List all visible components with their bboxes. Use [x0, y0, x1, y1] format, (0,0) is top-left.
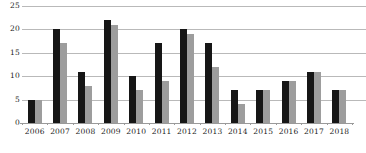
bar: [136, 90, 143, 123]
x-tick-mark: [124, 123, 125, 125]
bar: [282, 81, 289, 123]
y-tick-label: 15: [0, 49, 20, 57]
bar: [53, 29, 60, 123]
bar: [238, 104, 245, 123]
x-tick-label: 2007: [47, 128, 72, 136]
bar: [155, 43, 162, 123]
bar-group: [22, 6, 47, 123]
x-tick-label: 2009: [98, 128, 123, 136]
bar-group: [301, 6, 326, 123]
bar-group: [251, 6, 276, 123]
x-tick-mark: [149, 123, 150, 125]
x-tick-label: 2013: [200, 128, 225, 136]
bar: [231, 90, 238, 123]
x-tick-label: 2016: [276, 128, 301, 136]
bar: [205, 43, 212, 123]
y-tick-label: 0: [0, 119, 20, 127]
x-tick-mark: [98, 123, 99, 125]
bar: [332, 90, 339, 123]
axis-baseline: [20, 123, 354, 124]
x-tick-label: 2006: [22, 128, 47, 136]
bar-group: [73, 6, 98, 123]
y-tick-label: 20: [0, 25, 20, 33]
x-tick-label: 2011: [149, 128, 174, 136]
bar-group: [200, 6, 225, 123]
x-tick-label: 2012: [174, 128, 199, 136]
bar: [85, 86, 92, 123]
bar: [129, 76, 136, 123]
bar-group: [98, 6, 123, 123]
y-tick-label: 5: [0, 96, 20, 104]
x-axis: 2006200720082009201020112012201320142015…: [22, 128, 352, 136]
y-tick-label: 25: [0, 2, 20, 10]
x-tick-mark: [250, 123, 251, 125]
bar: [104, 20, 111, 123]
bar: [35, 100, 42, 123]
x-tick-mark: [174, 123, 175, 125]
y-tick-label: 10: [0, 72, 20, 80]
x-tick-label: 2014: [225, 128, 250, 136]
bar-chart: 0510152025 20062007200820092010201120122…: [0, 0, 366, 153]
bar: [314, 72, 321, 123]
bar: [256, 90, 263, 123]
x-tick-mark: [22, 123, 23, 125]
bar: [263, 90, 270, 123]
bar: [307, 72, 314, 123]
bar-group: [149, 6, 174, 123]
bar: [339, 90, 346, 123]
x-tick-mark: [327, 123, 328, 125]
bar: [28, 100, 35, 123]
bar: [60, 43, 67, 123]
bar-group: [276, 6, 301, 123]
bar-group: [327, 6, 352, 123]
x-tick-mark: [352, 123, 353, 125]
x-tick-mark: [47, 123, 48, 125]
bar: [212, 67, 219, 123]
x-tick-label: 2017: [301, 128, 326, 136]
bar: [78, 72, 85, 123]
bar-group: [225, 6, 250, 123]
x-tick-mark: [73, 123, 74, 125]
bar: [289, 81, 296, 123]
bar-group: [124, 6, 149, 123]
x-tick-mark: [200, 123, 201, 125]
x-tick-mark: [301, 123, 302, 125]
x-tick-mark: [225, 123, 226, 125]
x-tick-mark: [276, 123, 277, 125]
x-tick-label: 2015: [251, 128, 276, 136]
x-tick-label: 2008: [73, 128, 98, 136]
bar: [180, 29, 187, 123]
bar: [162, 81, 169, 123]
plot-area: [22, 6, 352, 123]
x-tick-label: 2010: [124, 128, 149, 136]
bar: [111, 25, 118, 123]
bar-group: [47, 6, 72, 123]
bar-group: [174, 6, 199, 123]
x-tick-label: 2018: [327, 128, 352, 136]
y-axis: 0510152025: [0, 0, 20, 153]
bar: [187, 34, 194, 123]
